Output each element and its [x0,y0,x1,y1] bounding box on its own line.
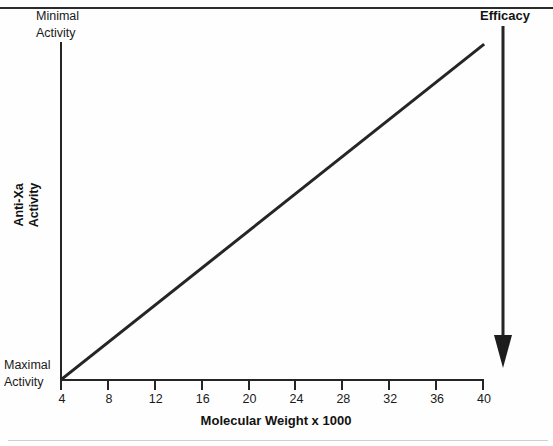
x-tick [388,381,390,390]
x-tick-label: 36 [417,392,457,406]
x-tick-label: 4 [42,392,82,406]
x-tick [201,381,203,390]
x-tick-label: 16 [183,392,223,406]
bottom-rule [8,440,548,441]
x-axis-title: Molecular Weight x 1000 [146,413,406,428]
x-tick [248,381,250,390]
y-axis-bottom-label: Maximal Activity [4,357,51,391]
x-tick [154,381,156,390]
chart-figure: Minimal Activity Maximal Activity Anti-X… [0,0,553,446]
x-tick [294,381,296,390]
series-line-anti-xa [62,45,483,379]
x-tick-label: 20 [230,392,270,406]
y-axis-top-label: Minimal Activity [36,8,79,42]
x-tick [435,381,437,390]
y-axis-line [60,42,62,381]
x-tick-label: 8 [89,392,129,406]
y-axis-title: Anti-Xa Activity [12,160,42,250]
x-tick-label: 24 [276,392,316,406]
x-axis-line [60,379,484,381]
x-tick [107,381,109,390]
efficacy-label: Efficacy [458,8,552,23]
x-tick-label: 32 [370,392,410,406]
x-tick [482,381,484,390]
x-tick-label: 28 [323,392,363,406]
x-tick [341,381,343,390]
x-tick-label: 12 [136,392,176,406]
x-tick [60,381,62,390]
efficacy-down-arrow-icon [478,26,532,371]
x-tick-label: 40 [464,392,504,406]
